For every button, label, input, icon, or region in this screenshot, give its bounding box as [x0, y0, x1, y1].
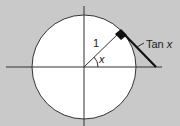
angle-label: x	[98, 53, 105, 65]
diagram-svg: 1 x Tan x	[0, 0, 180, 126]
tan-label-prefix: Tan	[146, 38, 167, 50]
radius-label: 1	[93, 37, 99, 49]
unit-circle-diagram: 1 x Tan x	[0, 0, 180, 126]
tan-label-var: x	[166, 38, 173, 50]
tan-label: Tan x	[146, 38, 173, 50]
